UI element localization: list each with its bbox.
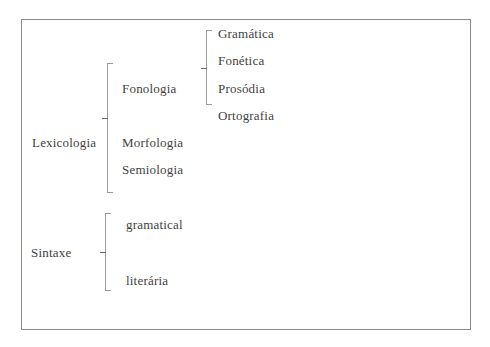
node-morfologia: Morfologia [122,135,183,151]
node-prosodia: Prosódia [218,81,265,97]
node-gramatica: Gramática [218,26,274,42]
node-lexicologia: Lexicologia [32,135,96,151]
node-fonologia: Fonologia [122,81,177,97]
bracket-cap-bottom [106,290,111,291]
node-ortografia: Ortografia [218,108,274,124]
bracket-tick [102,118,108,119]
node-semiologia: Semiologia [122,162,183,178]
bracket-fonologia [206,30,207,105]
bracket-cap-top [108,63,113,64]
node-sintaxe: Sintaxe [31,245,71,261]
bracket-sintaxe [105,213,106,291]
bracket-cap-top [207,30,212,31]
node-fonetica: Fonética [218,53,264,69]
bracket-tick [201,68,207,69]
bracket-lexicologia [107,63,108,193]
bracket-cap-bottom [108,192,113,193]
bracket-cap-top [106,213,111,214]
node-literaria: literária [126,273,168,289]
bracket-cap-bottom [207,104,212,105]
node-gramatical: gramatical [126,217,183,233]
bracket-tick [100,252,106,253]
